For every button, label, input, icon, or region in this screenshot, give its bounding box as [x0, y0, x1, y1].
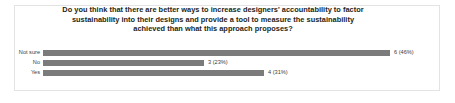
category-label-no: No [0, 59, 40, 66]
category-label-yes: Yes [0, 69, 40, 76]
bar-track: 4 (31%) [43, 68, 423, 77]
chart-title: Do you think that there are better ways … [16, 5, 410, 34]
chart-title-line-3: achieved than what this approach propose… [16, 24, 410, 34]
bar-track: 3 (23%) [43, 58, 423, 67]
data-label-not-sure: 6 (46%) [394, 49, 414, 56]
bar-track: 6 (46%) [43, 48, 423, 57]
chart-title-line-2: sustainability into their designs and pr… [16, 15, 410, 25]
bar-yes[interactable] [43, 70, 264, 76]
data-label-yes: 4 (31%) [268, 69, 288, 76]
data-label-no: 3 (23%) [208, 59, 228, 66]
bar-no[interactable] [43, 60, 204, 66]
category-label-not-sure: Not sure [0, 49, 40, 56]
plot-area: Not sure 6 (46%) No 3 (23%) Yes 4 (31%) [0, 44, 426, 86]
bar-row: Not sure 6 (46%) [0, 48, 426, 58]
chart-title-line-1: Do you think that there are better ways … [16, 5, 410, 15]
bar-row: Yes 4 (31%) [0, 68, 426, 78]
bar-row: No 3 (23%) [0, 58, 426, 68]
bar-not-sure[interactable] [43, 50, 390, 56]
